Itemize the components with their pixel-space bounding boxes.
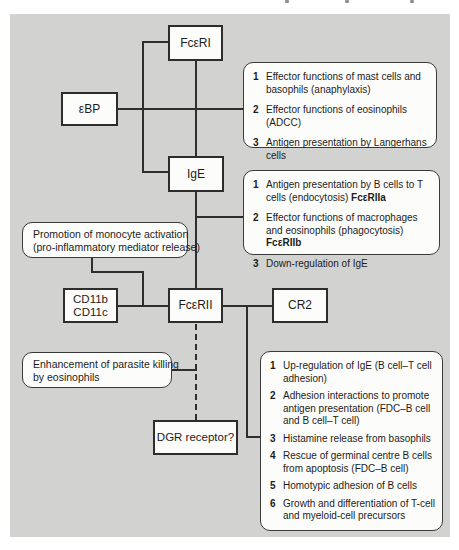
item-text: Histamine release from basophils xyxy=(283,433,436,446)
item-text: Antigen presentation by B cells to T cel… xyxy=(266,179,433,204)
node-ige-label: IgE xyxy=(187,168,205,181)
callout-promotion-line2: (pro-inflammatory mediator release) xyxy=(33,241,179,254)
item-text: Effector functions of macrophages and eo… xyxy=(266,212,433,250)
item-text: Rescue of germinal centre B cells from a… xyxy=(283,450,436,475)
diagram-canvas: FcεRI εBP IgE CD11b CD11c FcεRII CR2 DGR… xyxy=(0,0,459,550)
list-item: 1 Antigen presentation by B cells to T c… xyxy=(253,179,433,204)
list-item: 5 Homotypic adhesion of B cells xyxy=(270,480,436,493)
connector-cr2-branch-down xyxy=(246,305,248,438)
item-number: 5 xyxy=(270,480,283,493)
node-fceri-label: FcεRI xyxy=(180,37,211,50)
node-cd11: CD11b CD11c xyxy=(63,288,118,323)
callout-enhancement-line1: Enhancement of parasite killing xyxy=(33,358,163,371)
list-item: 2 Adhesion interactions to promote antig… xyxy=(270,390,436,428)
node-ebp-label: εBP xyxy=(79,103,100,116)
list-item: 1 Up-regulation of IgE (B cell–T cell ad… xyxy=(270,360,436,385)
list-item: 2 Effector functions of macrophages and … xyxy=(253,212,433,250)
item-text: Up-regulation of IgE (B cell–T cell adhe… xyxy=(283,360,436,385)
node-cr2-label: CR2 xyxy=(288,299,312,312)
list-item: 6 Growth and differentiation of T-cell a… xyxy=(270,498,436,523)
cropped-text-fragment xyxy=(285,0,289,3)
item-number: 4 xyxy=(270,450,283,475)
list-fceri-functions: 1 Effector functions of mast cells and b… xyxy=(243,62,437,148)
list-item: 3 Down-regulation of IgE xyxy=(253,258,433,271)
item-number: 3 xyxy=(253,137,266,162)
node-dgr-receptor: DGR receptor? xyxy=(153,420,238,455)
item-number: 2 xyxy=(253,104,266,129)
callout-enhancement-line2: by eosinophils xyxy=(33,371,163,384)
item-bold-receptor: FcεRIIb xyxy=(266,237,301,248)
list-item: 2 Effector functions of eosinophils (ADC… xyxy=(253,104,430,129)
connector-ige-to-ige-list xyxy=(196,216,244,218)
list-item: 3 Histamine release from basophils xyxy=(270,433,436,446)
node-fceri: FcεRI xyxy=(168,25,223,61)
item-number: 3 xyxy=(270,433,283,446)
item-bold-receptor: FcεRIIa xyxy=(351,192,386,203)
node-cr2: CR2 xyxy=(272,288,328,323)
item-text: Effector functions of eosinophils (ADCC) xyxy=(266,104,430,129)
callout-promotion-monocyte: Promotion of monocyte activation (pro-in… xyxy=(22,222,188,258)
list-item: 1 Effector functions of mast cells and b… xyxy=(253,71,430,96)
node-cd11c-label: CD11c xyxy=(73,306,107,319)
connector-cd11-to-fcerii xyxy=(118,305,168,307)
node-dgr-receptor-label: DGR receptor? xyxy=(157,431,234,444)
connector-promotion-to-cd11-line xyxy=(142,271,144,307)
item-text: Growth and differentiation of T-cell and… xyxy=(283,498,436,523)
list-item: 3 Antigen presentation by Langerhans cel… xyxy=(253,137,430,162)
item-text: Antigen presentation by Langerhans cells xyxy=(266,137,430,162)
connector-ebp-to-fceri-list xyxy=(118,108,244,110)
item-text: Effector functions of mast cells and bas… xyxy=(266,71,430,96)
connector-fceri-ige-left-vertical xyxy=(142,41,144,173)
list-ige-functions: 1 Antigen presentation by B cells to T c… xyxy=(243,170,440,255)
item-text: Adhesion interactions to promote antigen… xyxy=(283,390,436,428)
item-number: 1 xyxy=(270,360,283,385)
connector-fceri-left-elbow-top xyxy=(143,41,169,43)
item-number: 1 xyxy=(253,179,266,204)
item-number: 3 xyxy=(253,258,266,271)
list-item: 4 Rescue of germinal centre B cells from… xyxy=(270,450,436,475)
node-ige: IgE xyxy=(168,156,224,192)
connector-ige-left-elbow xyxy=(143,171,169,173)
item-text: Homotypic adhesion of B cells xyxy=(283,480,436,493)
callout-promotion-line1: Promotion of monocyte activation xyxy=(33,228,179,241)
node-fcerii-label: FcεRII xyxy=(178,299,212,312)
list-fcerii-functions: 1 Up-regulation of IgE (B cell–T cell ad… xyxy=(260,351,443,531)
cropped-text-fragment xyxy=(410,0,414,3)
connector-promotion-elbow xyxy=(91,271,144,273)
node-cd11b-label: CD11b xyxy=(73,293,108,306)
item-number: 2 xyxy=(270,390,283,428)
node-fcerii: FcεRII xyxy=(168,288,223,323)
item-text: Down-regulation of IgE xyxy=(266,258,433,271)
callout-enhancement-parasite: Enhancement of parasite killing by eosin… xyxy=(22,352,172,388)
item-number: 2 xyxy=(253,212,266,250)
item-number: 1 xyxy=(253,71,266,96)
cropped-text-fragment xyxy=(345,0,349,3)
item-number: 6 xyxy=(270,498,283,523)
node-ebp: εBP xyxy=(61,92,118,126)
connector-fcerii-to-dgr-dashed xyxy=(195,324,197,420)
